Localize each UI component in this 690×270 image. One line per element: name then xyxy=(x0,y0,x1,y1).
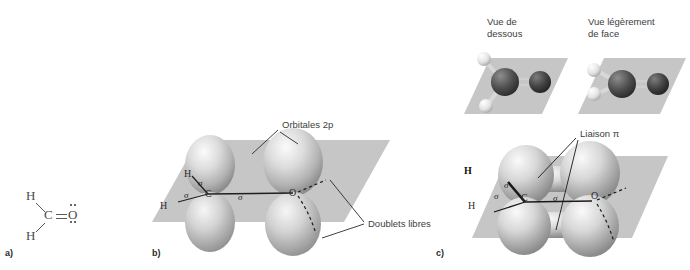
model-view-slightly-front xyxy=(570,42,690,122)
label-vue-dessous-line2: dessous xyxy=(487,28,522,40)
panel-c-atom-o: O xyxy=(591,190,598,201)
panel-b-atom-c: C xyxy=(205,188,212,199)
sphere-o-1 xyxy=(529,71,551,93)
sphere-o-2 xyxy=(647,73,669,95)
panel-b-atom-o: O xyxy=(289,187,296,198)
label-vue-de-dessous: Vue de dessous xyxy=(487,16,522,40)
label-orbitales-text: Orbitales 2 xyxy=(282,119,328,130)
panel-b-sigma-1: σ xyxy=(198,178,202,188)
panel-c-sigma-2: σ xyxy=(494,191,498,201)
orbital-lobe-c-up xyxy=(185,135,235,195)
leader-lonepairs-2 xyxy=(322,224,364,238)
orbital-lobe-o-up xyxy=(263,128,323,196)
panel-c-sigma-1: σ xyxy=(504,180,508,190)
sphere-h-2b xyxy=(587,87,601,101)
model-view-from-below xyxy=(456,42,576,122)
lewis-bonds xyxy=(0,180,120,270)
sphere-c-1 xyxy=(491,68,519,96)
panel-b-sigma-2: σ xyxy=(184,190,188,200)
label-orbitales-italic-p: p xyxy=(328,119,333,130)
label-vue-legerement-de-face: Vue légèrement de face xyxy=(588,16,655,40)
panel-b-graphic xyxy=(130,110,430,270)
label-vue-dessous-line1: Vue de xyxy=(487,16,522,28)
panel-b-atom-h-bottom: H xyxy=(160,200,167,211)
panel-c-atom-h-bottom: H xyxy=(468,200,475,211)
label-doublets-libres: Doublets libres xyxy=(368,218,431,230)
panel-letter-a: a) xyxy=(5,248,13,258)
panel-b-atom-h-top: H xyxy=(184,168,191,179)
panel-c-sigma-3: σ xyxy=(553,193,557,203)
panel-b-sigma-3: σ xyxy=(238,192,242,202)
label-orbitales-2p: Orbitales 2p xyxy=(282,119,333,131)
label-vue-face-line1: Vue légèrement xyxy=(588,16,655,28)
panel-letter-c: c) xyxy=(436,248,444,258)
label-vue-face-line2: de face xyxy=(588,28,655,40)
panel-c-atom-c: C xyxy=(521,192,528,203)
sigma-bond-co xyxy=(208,193,293,194)
panel-c-atom-h-top: H xyxy=(464,165,472,176)
sphere-h-2a xyxy=(587,63,601,77)
orbital-lobe-c-down xyxy=(185,192,235,252)
sphere-h-1a xyxy=(477,52,491,66)
sphere-h-1b xyxy=(479,99,493,113)
sphere-c-2 xyxy=(608,70,636,98)
panel-letter-b: b) xyxy=(152,248,161,258)
label-liaison-pi: Liaison π xyxy=(580,128,619,140)
